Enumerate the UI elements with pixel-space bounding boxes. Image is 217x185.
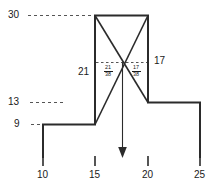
left-fraction-denominator: 38 xyxy=(100,72,116,77)
left-fraction-numerator: 21 xyxy=(100,65,116,70)
y-label-30: 30 xyxy=(8,10,19,20)
x-tick-label-20: 20 xyxy=(142,170,153,180)
x-tick-label-10: 10 xyxy=(37,170,48,180)
figure-canvas: 30 13 9 21 17 21 38 17 38 10 15 20 25 xyxy=(0,0,217,185)
right-fraction-numerator: 17 xyxy=(128,65,144,70)
left-difference-label: 21 xyxy=(78,67,89,77)
x-tick-label-15: 15 xyxy=(89,170,100,180)
right-fraction-denominator: 38 xyxy=(128,72,144,77)
construction-diagonal-left xyxy=(95,16,148,103)
histogram-svg xyxy=(0,0,217,185)
y-label-13: 13 xyxy=(8,97,19,107)
y-label-9: 9 xyxy=(14,119,20,129)
right-fraction: 17 38 xyxy=(128,65,144,78)
histogram-outline xyxy=(43,16,200,159)
left-fraction: 21 38 xyxy=(100,65,116,78)
mode-arrow-head xyxy=(118,147,127,158)
x-tick-label-25: 25 xyxy=(194,170,205,180)
right-difference-label: 17 xyxy=(154,56,165,66)
